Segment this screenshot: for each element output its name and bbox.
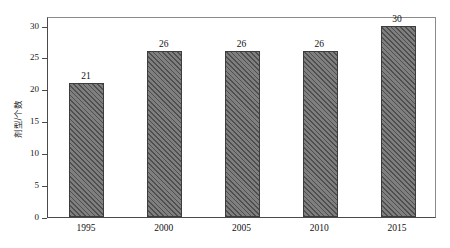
x-axis-tick-label: 2015 [372,223,422,233]
y-axis-tick-label: 15 [17,117,39,126]
y-axis-tick-label: 25 [17,53,39,62]
bar [147,51,182,217]
bar-value-label: 26 [299,39,339,49]
bar-chart: 剂型/个数 051015202530 211995262000262005262… [0,0,450,248]
bar [225,51,260,217]
y-axis-tick-label: 0 [17,213,39,222]
y-axis-tick-mark [42,218,47,219]
y-axis-tick-label: 30 [17,22,39,31]
bar-value-label: 26 [222,39,262,49]
bar-value-label: 30 [377,14,417,24]
bar [303,51,338,217]
x-axis-tick-label: 2010 [294,223,344,233]
x-axis-tick-label: 2005 [217,223,267,233]
y-axis-tick-label: 20 [17,85,39,94]
bar [69,83,104,217]
bar [381,26,416,217]
x-axis-tick-label: 2000 [139,223,189,233]
x-axis-tick-label: 1995 [61,223,111,233]
y-axis-tick-label: 10 [17,149,39,158]
bar-value-label: 26 [144,39,184,49]
y-axis-tick-label: 5 [17,181,39,190]
bar-value-label: 21 [66,71,106,81]
